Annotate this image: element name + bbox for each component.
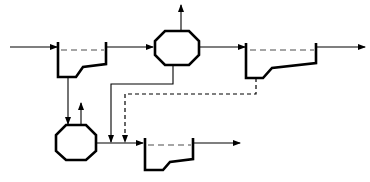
settling-tank-3 [145,138,193,170]
settling-tank-2 [246,43,316,78]
flow-reactor1-to-tank3-feed [111,65,173,142]
dashed-flow-tank2-to-tank3-feed [125,78,256,142]
process-flow-diagram [0,0,370,182]
reactor-vessel-1 [155,31,199,65]
reactor-vessel-2 [56,125,96,160]
settling-tank-1 [58,42,106,77]
